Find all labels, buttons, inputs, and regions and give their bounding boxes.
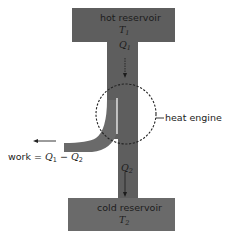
hot-reservoir-temperature: T1 bbox=[119, 25, 129, 37]
work-arrow-icon bbox=[33, 139, 56, 143]
work-label: work = Q1 − Q2 bbox=[8, 152, 83, 164]
cold-reservoir-temperature: T2 bbox=[119, 215, 129, 227]
work-output-branch bbox=[64, 100, 117, 152]
work-q1-symbol: Q bbox=[45, 151, 53, 162]
t2-subscript: 2 bbox=[125, 219, 129, 227]
q2-subscript: 2 bbox=[129, 167, 133, 175]
t1-subscript: 1 bbox=[125, 29, 129, 37]
cold-reservoir-label: cold reservoir bbox=[97, 203, 162, 213]
heat-engine-label: heat engine bbox=[165, 113, 222, 123]
work-q2-subscript: 2 bbox=[79, 156, 83, 164]
work-q2-symbol: Q bbox=[71, 151, 79, 162]
heat-out-label: Q2 bbox=[121, 163, 133, 175]
work-prefix: work = bbox=[8, 151, 45, 162]
hot-reservoir-label: hot reservoir bbox=[100, 13, 161, 23]
q2-symbol: Q bbox=[121, 162, 129, 173]
q1-subscript: 1 bbox=[127, 44, 131, 52]
work-minus: − bbox=[57, 151, 71, 162]
heat-in-label: Q1 bbox=[119, 40, 131, 52]
q1-symbol: Q bbox=[119, 39, 127, 50]
